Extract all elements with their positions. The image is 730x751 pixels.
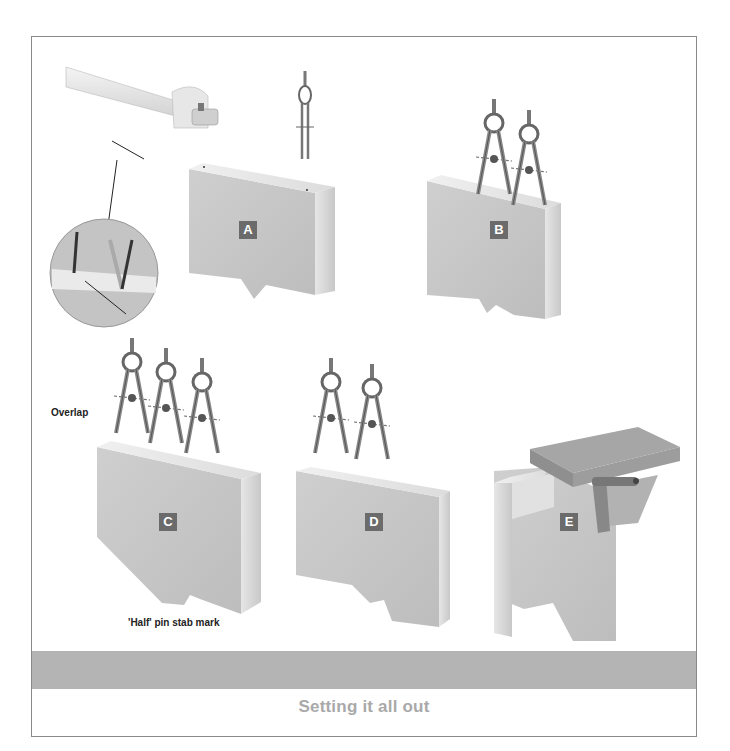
callout-overlap: Overlap: [51, 407, 88, 418]
page-frame: A B C D E Overlap 'Half' pin stab mark S…: [31, 36, 697, 737]
callout-half-pin-stab-mark: 'Half' pin stab mark: [128, 617, 219, 628]
block-b-illustration: [427, 99, 561, 319]
illustration-canvas: [32, 37, 698, 651]
figure-label-d: D: [365, 513, 383, 531]
dividers-icon: [296, 71, 314, 159]
marking-gauge-icon: [66, 67, 218, 128]
block-e-illustration: [494, 427, 680, 641]
block-a-illustration: [189, 163, 335, 299]
page-caption: Setting it all out: [32, 697, 696, 717]
footer-band: [32, 651, 696, 689]
block-d-illustration: [296, 358, 450, 627]
figure-label-c: C: [159, 513, 177, 531]
figure-label-b: B: [490, 221, 508, 239]
figure-label-a: A: [239, 221, 257, 239]
figure-label-e: E: [560, 513, 578, 531]
